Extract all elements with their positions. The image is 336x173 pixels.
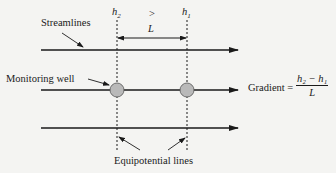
monitoring-well-leader-arrow [88,79,109,85]
gradient-label: Gradient = [248,83,293,94]
equipotential-lines-label: Equipotential lines [114,156,193,167]
head-h1-label: h1 [182,7,191,20]
monitoring-well-h2 [110,83,124,97]
equipotential-leader-arrow-right [168,138,185,150]
gradient-numerator: h₂ − h₁ [296,73,328,86]
gradient-denominator: L [309,86,315,98]
length-label: L [148,24,154,35]
streamlines-leader-arrow [62,33,83,47]
gradient-fraction: h₂ − h₁ L [296,73,328,98]
head-h2-label: h2 [112,7,121,20]
greater-than-symbol: > [149,9,155,20]
equipotential-leader-arrow-left [119,137,140,150]
streamlines-label: Streamlines [41,18,91,29]
monitoring-well-label: Monitoring well [6,74,75,85]
monitoring-well-h1 [180,83,194,97]
